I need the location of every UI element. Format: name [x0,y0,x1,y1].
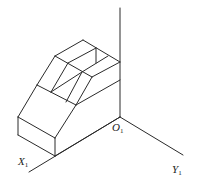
y-axis-label-sub: 1 [178,169,182,177]
axonometric-diagram [0,0,197,183]
origin-label: O1 [112,122,123,135]
y-axis-label: Y1 [172,164,182,177]
x-axis-label-text: X [18,155,25,167]
object-outline [18,40,120,156]
origin-label-sub: 1 [120,127,124,135]
x-axis-label-sub: 1 [25,161,29,169]
x-axis-label: X1 [18,156,28,169]
y-axis [120,117,183,155]
origin-label-text: O [112,121,120,133]
